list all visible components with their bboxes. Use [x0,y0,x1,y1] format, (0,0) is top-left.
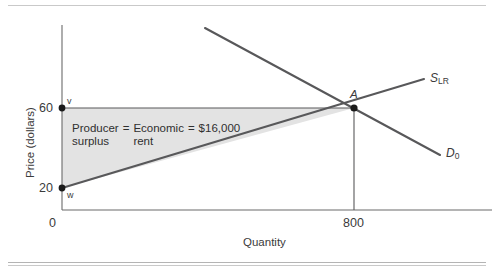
annotation-equals-1: = [123,122,130,135]
annotation-grid: Producer = Economic = $16,000 surplus re… [72,122,240,148]
producer-surplus-annotation: Producer = Economic = $16,000 surplus re… [72,122,240,148]
y-axis-title: Price (dollars) [24,107,37,178]
curve-label-demand-d0: D0 [446,147,459,161]
bottom-divider-rule-lower [8,265,486,266]
point-w-marker [59,185,66,192]
annotation-surplus: surplus [72,135,119,148]
annotation-value: $16,000 [199,122,241,135]
annotation-economic: Economic [133,122,184,135]
y-tick-label-60: 60 [39,101,53,115]
annotation-equals-2: = [188,122,195,135]
x-tick-label-800: 800 [343,216,364,230]
annotation-rent: rent [133,135,184,148]
bottom-divider-rule-upper [8,262,486,263]
curve-label-demand-main: D [446,146,455,160]
point-label-w: w [67,190,74,200]
axis-origin-label: 0 [49,216,56,230]
curve-label-demand-subscript: 0 [455,151,460,161]
annotation-producer: Producer [72,122,119,135]
curve-label-supply-slr: SLR [430,72,449,86]
point-label-a: A [350,88,358,101]
curve-label-supply-subscript: LR [438,76,449,86]
point-label-v: v [67,96,72,106]
curve-label-supply-main: S [430,71,438,85]
point-v-marker [59,105,66,112]
x-axis-title: Quantity [243,236,286,249]
y-tick-label-20: 20 [39,181,53,195]
figure-container: 60 20 0 800 Price (dollars) Quantity v w… [0,0,492,275]
point-a-marker [350,104,357,111]
